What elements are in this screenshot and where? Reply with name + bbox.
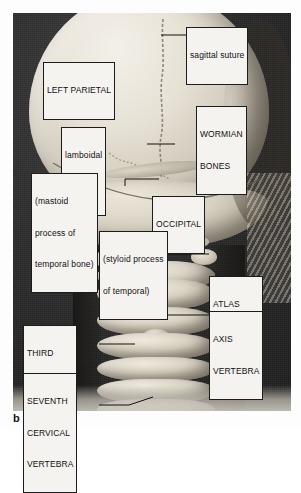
label-seventh-cervical-vertebra-line-2: CERVICAL: [27, 428, 73, 438]
label-seventh-cervical-vertebra[interactable]: SEVENTH CERVICAL VERTEBRA: [23, 373, 77, 493]
label-sagittal-suture-line-1: sagittal suture: [190, 50, 244, 60]
label-wormian-bones[interactable]: WORMIAN BONES: [196, 106, 247, 195]
label-occipital-line-1: OCCIPITAL: [156, 219, 201, 229]
label-axis-vertebra-line-2: VERTEBRA: [213, 366, 259, 376]
leader-seventh-cervical: [99, 397, 153, 405]
label-axis-vertebra-line-1: AXIS: [213, 334, 259, 344]
label-third-cervical-vertebra-line-1: THIRD: [27, 348, 73, 358]
label-mastoid-process-line-2: process of: [35, 228, 94, 238]
label-seventh-cervical-vertebra-line-1: SEVENTH: [27, 396, 73, 406]
leader-mastoid-process: [125, 179, 159, 186]
label-wormian-bones-line-1: WORMIAN: [200, 129, 243, 139]
label-styloid-process[interactable]: (styloid process of temporal): [99, 231, 168, 320]
label-wormian-bones-line-2: BONES: [200, 161, 243, 171]
label-left-parietal-line-1: LEFT PARIETAL: [47, 85, 111, 95]
label-lamboidal-suture-line-1: lamboidal: [65, 150, 102, 160]
label-mastoid-process[interactable]: (mastoid process of temporal bone): [31, 173, 98, 293]
label-mastoid-process-line-1: (mastoid: [35, 196, 94, 206]
label-left-parietal[interactable]: LEFT PARIETAL: [43, 62, 115, 120]
label-axis-vertebra[interactable]: AXIS VERTEBRA: [209, 311, 263, 400]
label-seventh-cervical-vertebra-line-3: VERTEBRA: [27, 459, 73, 469]
label-styloid-process-line-1: (styloid process: [103, 254, 164, 264]
figure-caption-letter: b: [13, 412, 20, 424]
label-atlas-vertebra-line-1: ATLAS: [213, 299, 259, 309]
label-sagittal-suture[interactable]: sagittal suture: [186, 27, 248, 85]
label-styloid-process-line-2: of temporal): [103, 286, 164, 296]
label-mastoid-process-line-3: temporal bone): [35, 259, 94, 269]
